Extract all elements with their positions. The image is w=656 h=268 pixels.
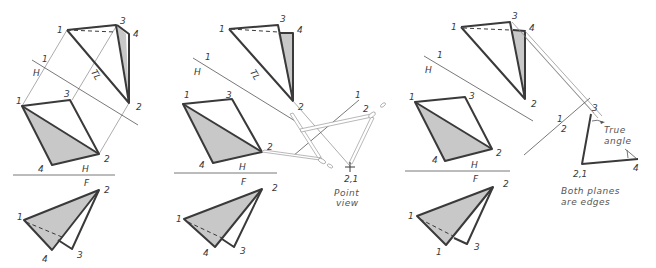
- vertex-label: 3: [592, 103, 598, 113]
- hidden-edge: [67, 30, 115, 32]
- panel-1: 1 H 1 3 4 2 TL 1 3 2 4 H F 1 2 4 3: [13, 16, 142, 264]
- fold-label-lower: 2: [363, 104, 369, 114]
- vertex-label: 4: [133, 29, 139, 39]
- vertex-label: 1: [409, 92, 415, 102]
- fold-label-lower: H: [425, 65, 432, 75]
- vertex-label: 4: [199, 160, 205, 170]
- vertex-label: 4: [432, 155, 438, 165]
- vertex-label: 2: [503, 179, 509, 189]
- vertex-label: 2: [104, 185, 110, 195]
- point-view-note: Point: [334, 188, 359, 198]
- vertex-label: 4: [42, 254, 48, 264]
- vertex-label: 3: [240, 246, 246, 256]
- shaded-face: [24, 190, 99, 250]
- vertex-label: 1: [17, 212, 23, 222]
- vertex-label: 1: [219, 24, 225, 34]
- fold-line-1-h: [32, 60, 138, 125]
- fold-label-lower: 2: [561, 124, 567, 134]
- fold-label-lower: F: [84, 178, 90, 188]
- fold-label-lower: F: [241, 177, 247, 187]
- fold-label-upper: 1: [557, 114, 563, 124]
- vertex-label: 1: [176, 214, 182, 224]
- true-angle-label: angle: [604, 136, 631, 146]
- fold-label-lower: F: [473, 174, 479, 184]
- true-angle-label: True: [604, 125, 626, 135]
- vertex-label: 4: [633, 163, 639, 173]
- vertex-label: 2: [272, 183, 278, 193]
- vertex-label: 4: [297, 25, 303, 35]
- vertex-label: 1: [57, 25, 63, 35]
- vertex-label: 3: [64, 89, 70, 99]
- projection-line: [526, 38, 598, 118]
- both-planes-note: Both planes: [561, 186, 620, 196]
- vertex-label: 3: [512, 11, 518, 21]
- vertex-label: 3: [469, 91, 475, 101]
- vertex-label: 3: [474, 242, 480, 252]
- vertex-label: 4: [38, 164, 44, 174]
- fold-label-upper: 1: [355, 90, 361, 100]
- vertex-label: 2: [496, 148, 502, 158]
- point-view-note: view: [336, 198, 359, 208]
- vertex-label: 1: [408, 211, 414, 221]
- fold-label-lower: H: [33, 68, 40, 78]
- vertex-label: 4: [203, 248, 209, 258]
- fold-label-upper: H: [82, 164, 89, 174]
- vertex-label: 2: [136, 102, 142, 112]
- point-view-label: 2,1: [344, 174, 358, 184]
- true-length-label: TL: [248, 68, 262, 82]
- shaded-face: [417, 187, 493, 245]
- point-view-marker: [345, 162, 355, 172]
- fold-label-upper: 1: [42, 54, 48, 64]
- vertex-label: 1: [436, 247, 442, 257]
- panel-2: 1 H 1 3 4 2 TL 1 3 2 4 H F 1 2 4 3 1: [174, 14, 386, 258]
- vertex-label: 1: [16, 96, 22, 106]
- vertex-label: 4: [529, 23, 535, 33]
- vertex-label: 2: [531, 99, 537, 109]
- fold-label-lower: H: [194, 67, 201, 77]
- divider-tool-1: [262, 113, 333, 169]
- panel-3: 1 H 1 3 4 2 1 3 2 4 H F 1 2 1 3: [405, 11, 639, 257]
- vertex-label: 2: [104, 154, 110, 164]
- fold-label-upper: 1: [437, 50, 443, 60]
- fold-label-upper: H: [471, 160, 478, 170]
- dihedral-angle-diagram: 1 H 1 3 4 2 TL 1 3 2 4 H F 1 2 4 3: [0, 0, 656, 268]
- vertex-label: 1: [184, 90, 190, 100]
- hidden-edge: [231, 29, 278, 32]
- fold-label-upper: 1: [205, 52, 211, 62]
- vertex-label: 3: [226, 90, 232, 100]
- divider-tool-2: [300, 102, 386, 164]
- vertex-label: 3: [280, 14, 286, 24]
- both-planes-note: are edges: [561, 197, 610, 207]
- vertex-label: 1: [451, 22, 457, 32]
- vertex-label: 2,1: [573, 169, 587, 179]
- hidden-edge: [463, 28, 510, 30]
- vertex-label: 3: [120, 16, 126, 26]
- vertex-label: 3: [77, 250, 83, 260]
- fold-label-upper: H: [239, 162, 246, 172]
